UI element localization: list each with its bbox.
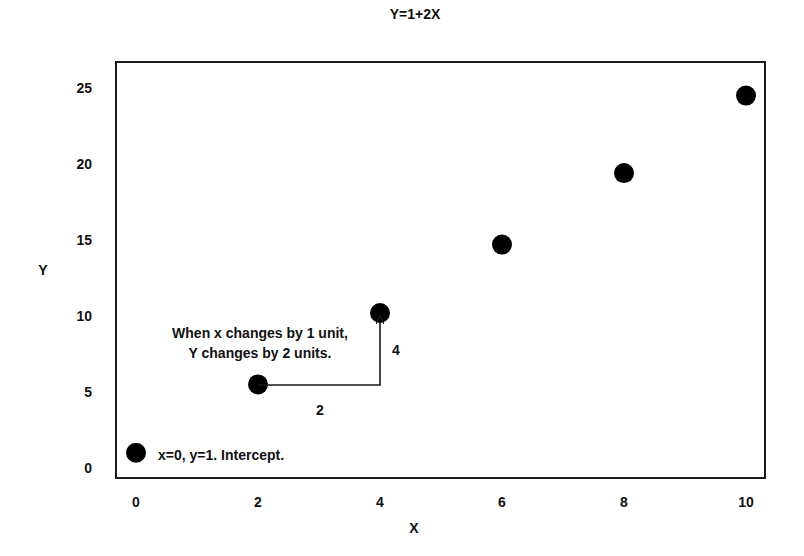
data-point (614, 163, 634, 183)
slope-annotation: When x changes by 1 unit, Y changes by 2… (130, 323, 390, 363)
rise-label: 4 (388, 340, 404, 360)
run-label: 2 (312, 400, 328, 420)
data-point (370, 303, 390, 323)
slope-annotation-line-2: Y changes by 2 units. (130, 343, 390, 363)
data-point (736, 86, 756, 106)
data-point (492, 235, 512, 255)
data-point (126, 443, 146, 463)
intercept-annotation: x=0, y=1. Intercept. (158, 445, 284, 465)
slope-annotation-line-1: When x changes by 1 unit, (130, 323, 390, 343)
data-points (126, 86, 756, 463)
plot-layer (0, 0, 804, 556)
